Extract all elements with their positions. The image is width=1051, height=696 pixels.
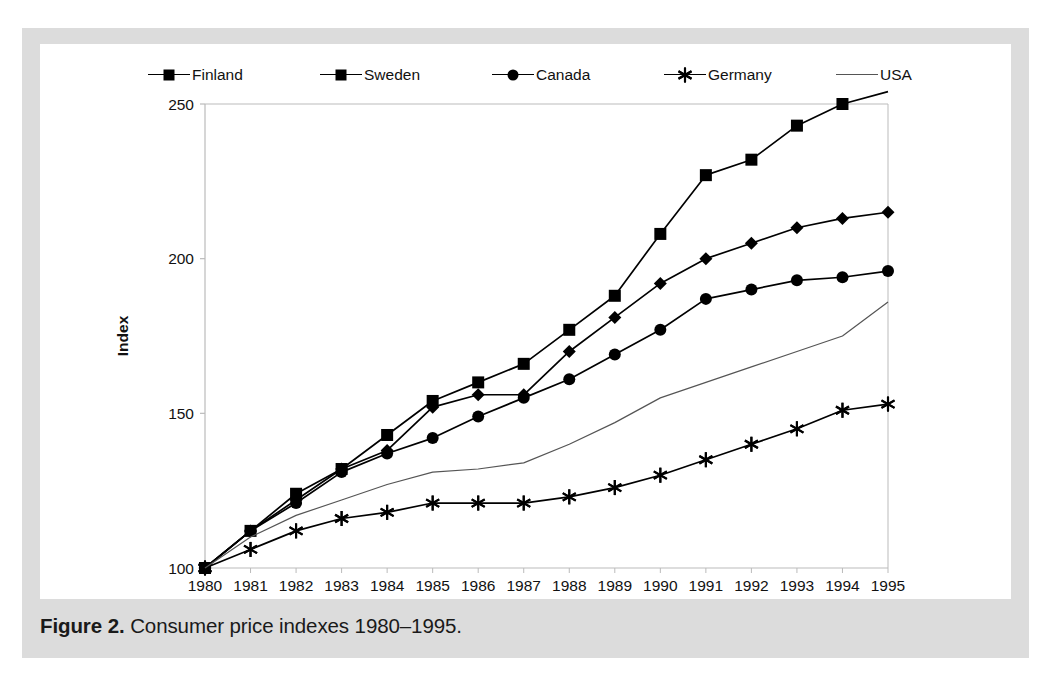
- data-point-finland-1989: [608, 311, 621, 324]
- series-canada: [199, 265, 894, 574]
- data-point-canada-1983: [336, 466, 348, 478]
- x-tick-label: 1990: [643, 577, 678, 594]
- x-tick-label: 1983: [324, 577, 358, 594]
- data-point-finland-1992: [745, 237, 758, 250]
- data-point-sweden-1984: [381, 429, 393, 441]
- series-germany: [199, 397, 895, 576]
- data-point-canada-1995: [882, 265, 894, 277]
- x-tick-label: 1984: [370, 577, 405, 594]
- data-point-sweden-1990: [654, 228, 666, 240]
- data-point-canada-1986: [472, 410, 484, 422]
- line-chart: 1001502002501980198119821983198419851986…: [0, 0, 1051, 696]
- x-tick-label: 1992: [734, 577, 768, 594]
- data-point-germany-1989: [608, 480, 621, 495]
- x-tick-label: 1986: [461, 577, 495, 594]
- data-point-sweden-1987: [518, 358, 530, 370]
- data-point-finland-1995: [882, 206, 895, 219]
- figure-caption-strip: Figure 2. Consumer price indexes 1980–19…: [22, 600, 1029, 658]
- series-line-canada: [205, 271, 888, 568]
- data-point-germany-1992: [745, 437, 758, 452]
- data-point-finland-1986: [472, 388, 485, 401]
- y-tick-label: 100: [168, 560, 194, 577]
- series-finland: [199, 206, 895, 575]
- data-point-finland-1994: [836, 212, 849, 225]
- series-line-sweden: [205, 92, 888, 568]
- data-point-germany-1982: [290, 523, 303, 538]
- figure-caption: Figure 2. Consumer price indexes 1980–19…: [40, 614, 462, 638]
- data-point-canada-1994: [836, 271, 848, 283]
- data-point-germany-1993: [790, 421, 803, 436]
- data-point-finland-1993: [790, 221, 803, 234]
- data-point-sweden-1985: [427, 395, 439, 407]
- figure-caption-label: Figure 2.: [40, 614, 125, 637]
- data-point-canada-1985: [427, 432, 439, 444]
- x-tick-label: 1985: [415, 577, 449, 594]
- y-tick-label: 150: [168, 405, 194, 422]
- data-point-sweden-1986: [472, 376, 484, 388]
- y-tick-label: 250: [168, 96, 194, 113]
- x-tick-label: 1987: [506, 577, 540, 594]
- x-tick-label: 1981: [233, 577, 267, 594]
- x-tick-label: 1993: [780, 577, 814, 594]
- data-point-canada-1984: [381, 448, 393, 460]
- label-layer: 1001502002501980198119821983198419851986…: [114, 96, 905, 595]
- x-tick-label: 1991: [689, 577, 723, 594]
- data-point-canada-1991: [700, 293, 712, 305]
- data-point-sweden-1991: [700, 169, 712, 181]
- data-point-canada-1989: [609, 349, 621, 361]
- figure-container: FinlandSwedenCanadaGermanyUSA 1001502002…: [0, 0, 1051, 696]
- data-point-canada-1990: [654, 324, 666, 336]
- figure-caption-body: Consumer price indexes 1980–1995.: [125, 614, 462, 637]
- data-point-canada-1982: [290, 497, 302, 509]
- data-point-finland-1990: [654, 277, 667, 290]
- data-point-germany-1981: [244, 542, 257, 557]
- x-tick-label: 1994: [825, 577, 860, 594]
- x-tick-label: 1982: [279, 577, 313, 594]
- x-tick-label: 1995: [871, 577, 905, 594]
- data-point-germany-1990: [654, 468, 667, 483]
- series-line-germany: [205, 404, 888, 568]
- data-point-canada-1993: [791, 274, 803, 286]
- series-layer: [199, 92, 895, 576]
- y-tick-label: 200: [168, 250, 194, 267]
- data-point-sweden-1994: [836, 98, 848, 110]
- data-point-canada-1992: [745, 284, 757, 296]
- data-point-finland-1991: [699, 252, 712, 265]
- data-point-canada-1987: [518, 392, 530, 404]
- x-tick-label: 1988: [552, 577, 586, 594]
- series-line-finland: [205, 212, 888, 568]
- x-tick-label: 1989: [598, 577, 632, 594]
- data-point-sweden-1989: [609, 290, 621, 302]
- data-point-sweden-1993: [791, 120, 803, 132]
- data-point-germany-1991: [699, 452, 712, 467]
- data-point-canada-1988: [563, 373, 575, 385]
- axis-layer: [200, 104, 888, 573]
- data-point-sweden-1992: [745, 154, 757, 166]
- x-tick-label: 1980: [188, 577, 223, 594]
- data-point-sweden-1988: [563, 324, 575, 336]
- y-axis-title: Index: [114, 315, 131, 356]
- series-sweden: [199, 92, 888, 574]
